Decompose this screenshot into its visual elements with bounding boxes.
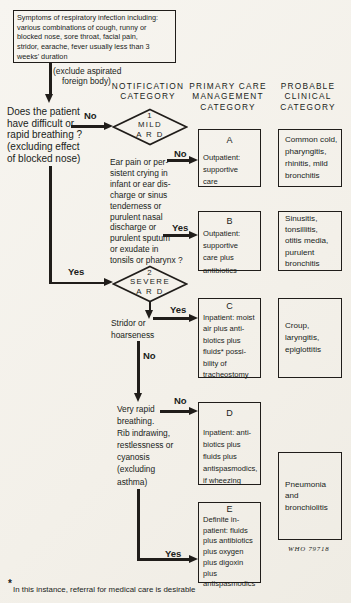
very-rapid-breathing-criteria: Very rapid breathing. Rib indrawing, res… [117,403,173,488]
management-box-c: C Inpatient: moist air plus anti- biotic… [198,298,261,378]
label-yes: Yes [165,548,181,559]
connector-line [153,317,189,320]
header-primary-care-category: PRIMARY CARE MANAGEMENT CATEGORY [188,81,268,112]
footnote-text: In this instance, referral for medical c… [13,585,195,594]
connector-line [49,166,52,283]
label-yes: Yes [68,266,84,277]
label-no: No [174,148,187,159]
diamond1-type: A R D [112,130,188,140]
connector-line [49,282,104,285]
box-b-letter: B [199,216,260,226]
box-b-text: Outpatient: supportive care plus antibio… [199,228,260,277]
arrow-down-icon [45,94,53,103]
label-no: No [84,110,97,121]
arrow-right-icon [189,314,198,322]
connector-line [49,62,52,95]
management-box-d: D Inpatient: anti- biotics plus fluids p… [198,402,261,485]
label-no: No [143,350,156,361]
clinical-box-text: Pneumonia and bronchiolitis [279,479,341,513]
symptoms-box: Symptoms of respiratory infection includ… [13,10,176,63]
box-e-letter: E [199,504,260,514]
question-difficult-breathing: Does the patient have difficult or rapid… [7,106,82,165]
clinical-box-text: Common cold, pharyngitis, rhinitis, mild… [279,134,341,183]
box-a-letter: A [199,135,260,145]
clinical-box-croup: Croup, laryngitis, epiglottitis [278,298,342,378]
diamond-mild-ard-text: 1 MILD A R D [112,111,188,140]
connector-line [71,125,104,128]
box-d-text: Inpatient: anti- biotics plus fluids plu… [199,427,260,487]
clinical-box-common-cold: Common cold, pharyngitis, rhinitis, mild… [278,129,342,187]
label-no: No [174,395,187,406]
arrow-right-icon [189,555,198,563]
connector-line [167,159,189,162]
diamond2-type: A R D [112,287,188,297]
label-yes: Yes [170,304,186,315]
header-notification-category: NOTIFICATION CATEGORY [108,81,188,102]
box-d-letter: D [199,408,260,418]
ear-pain-criteria: Ear pain or per- sistent crying in infan… [110,157,183,266]
management-box-a: A Outpatient: supportive care [198,129,261,187]
clinical-box-pneumonia: Pneumonia and bronchiolitis [278,452,342,540]
arrow-right-icon [189,156,198,164]
arrow-right-icon [189,407,198,415]
arrow-down-icon [134,393,142,402]
clinical-box-sinusitis: Sinusitis, tonsillitis, otitis media, pu… [278,211,342,271]
exclude-note-line2: foreign body) [62,76,111,87]
ard-flowchart: Symptoms of respiratory infection includ… [0,0,351,603]
header-probable-clinical-category: PROBABLE CLINICAL CATEGORY [268,81,348,112]
management-box-e: E Definite in- patient: fluids plus anti… [198,502,261,583]
connector-line [160,410,189,413]
box-c-letter: C [199,301,260,311]
diamond2-number: 2 [112,268,188,278]
stridor-criteria: Stridor or hoarseness [111,318,154,341]
who-figure-credit: WHO 79718 [288,545,329,552]
clinical-box-text: Sinusitis, tonsillitis, otitis media, pu… [279,213,341,269]
connector-line [137,489,140,561]
diamond1-number: 1 [112,111,188,121]
box-a-text: Outpatient: supportive care [199,152,260,188]
arrow-right-icon [189,231,198,239]
diamond2-name: SEVERE [112,277,188,287]
label-yes: Yes [172,222,188,233]
box-c-text: Inpatient: moist air plus anti- biotics … [199,312,260,380]
box-e-text: Definite in- patient: fluids plus antibi… [199,515,260,590]
clinical-box-text: Croup, laryngitis, epiglottitis [279,320,341,356]
connector-line [163,234,189,237]
diamond-severe-ard-text: 2 SEVERE A R D [112,268,188,297]
management-box-b: B Outpatient: supportive care plus antib… [198,211,261,271]
connector-line [137,341,140,394]
diamond1-name: MILD [112,120,188,130]
footnote-asterisk: * [8,578,12,589]
